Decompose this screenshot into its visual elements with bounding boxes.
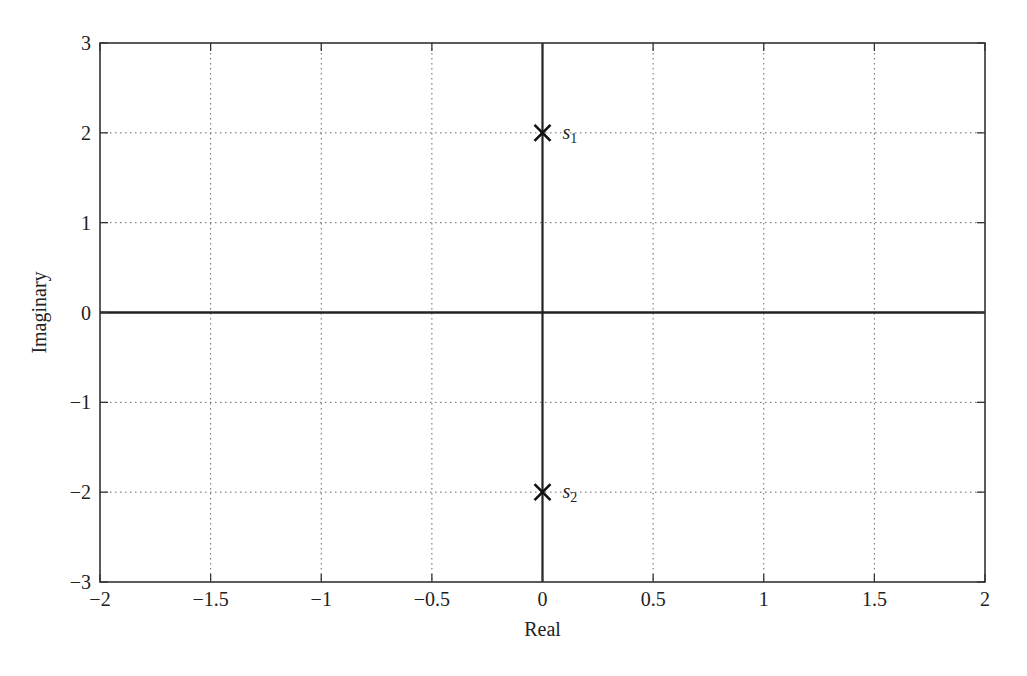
x-tick-label: −1.5 bbox=[192, 588, 228, 610]
x-tick-label: 1 bbox=[759, 588, 769, 610]
y-axis-label: Imaginary bbox=[28, 271, 51, 353]
x-tick-label: −0.5 bbox=[414, 588, 450, 610]
x-tick-label: 0.5 bbox=[641, 588, 666, 610]
zero-axes bbox=[100, 43, 985, 582]
y-tick-label: −1 bbox=[70, 391, 91, 413]
y-tick-label: 1 bbox=[81, 212, 91, 234]
y-tick-label: 2 bbox=[81, 122, 91, 144]
y-tick-label: −3 bbox=[70, 571, 91, 593]
pole-label: s1 bbox=[563, 121, 578, 146]
x-tick-label: −1 bbox=[311, 588, 332, 610]
x-tick-label: 0 bbox=[538, 588, 548, 610]
x-tick-label: −2 bbox=[89, 588, 110, 610]
y-tick-label: −2 bbox=[70, 481, 91, 503]
pole-zero-plot: −2−1.5−1−0.500.511.52 −3−2−10123 s1s2 Re… bbox=[0, 0, 1027, 676]
x-tick-label: 2 bbox=[980, 588, 990, 610]
x-tick-label: 1.5 bbox=[862, 588, 887, 610]
y-tick-label: 3 bbox=[81, 32, 91, 54]
y-tick-label: 0 bbox=[81, 302, 91, 324]
x-axis-label: Real bbox=[524, 618, 561, 640]
pole-label: s2 bbox=[563, 480, 578, 505]
x-tick-labels: −2−1.5−1−0.500.511.52 bbox=[89, 588, 990, 610]
y-tick-labels: −3−2−10123 bbox=[70, 32, 91, 593]
